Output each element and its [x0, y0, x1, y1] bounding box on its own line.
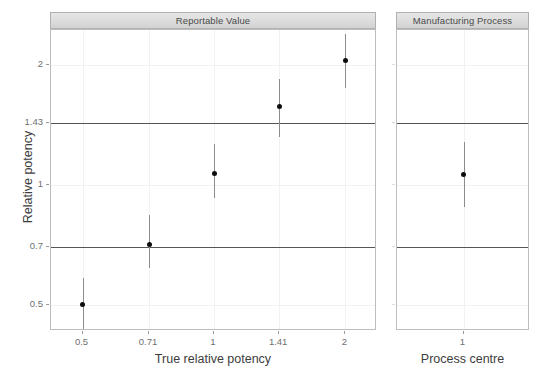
data-point[interactable]	[461, 172, 466, 177]
y-tick-mark-secondary	[392, 246, 395, 247]
panel-manufacturing-process: Manufacturing Process	[396, 12, 529, 330]
y-tick-label: 0.7	[0, 241, 43, 251]
x-tick-mark	[148, 331, 149, 334]
x-tick-mark	[278, 331, 279, 334]
data-point[interactable]	[277, 104, 282, 109]
y-tick-label: 0.5	[0, 299, 43, 309]
panel-strip-label-0: Reportable Value	[50, 12, 376, 29]
y-tick-mark-secondary	[392, 64, 395, 65]
x-tick-label: 0.5	[62, 337, 102, 347]
x-tick-label: 0.71	[128, 337, 168, 347]
y-tick-mark	[46, 64, 49, 65]
reference-line-0.7	[51, 247, 375, 248]
y-tick-label: 1.43	[0, 117, 43, 127]
x-tick-label: 1.41	[258, 337, 298, 347]
reference-line-0.7	[397, 247, 528, 248]
y-tick-label: 2	[0, 59, 43, 69]
gridline-horizontal	[397, 305, 528, 306]
reference-line-1.43	[51, 123, 375, 124]
gridline-horizontal	[397, 65, 528, 66]
reference-line-1.43	[397, 123, 528, 124]
x-axis-title-1: Process centre	[396, 352, 529, 366]
gridline-horizontal	[51, 185, 375, 186]
x-tick-label: 1	[443, 337, 483, 347]
data-point[interactable]	[147, 242, 152, 247]
x-axis-title-0: True relative potency	[50, 352, 376, 366]
x-tick-mark	[463, 331, 464, 334]
y-tick-mark	[46, 184, 49, 185]
y-tick-mark	[46, 122, 49, 123]
x-tick-mark	[213, 331, 214, 334]
x-tick-label: 2	[324, 337, 364, 347]
data-point[interactable]	[212, 171, 217, 176]
y-tick-label: 1	[0, 179, 43, 189]
y-tick-mark	[46, 246, 49, 247]
y-tick-mark-secondary	[392, 304, 395, 305]
y-tick-mark	[46, 304, 49, 305]
panel-strip-label-1: Manufacturing Process	[396, 12, 529, 29]
y-tick-mark-secondary	[392, 184, 395, 185]
gridline-horizontal	[51, 65, 375, 66]
x-tick-mark	[82, 331, 83, 334]
panel-reportable-value: Reportable Value	[50, 12, 376, 330]
gridline-horizontal	[51, 305, 375, 306]
chart-root: Relative potency 21.4310.70.5 Reportable…	[0, 0, 538, 375]
plot-area-1	[396, 29, 529, 330]
x-tick-label: 1	[193, 337, 233, 347]
gridline-vertical	[149, 30, 150, 329]
gridline-horizontal	[397, 185, 528, 186]
data-point[interactable]	[343, 58, 348, 63]
gridline-vertical	[279, 30, 280, 329]
y-tick-mark-secondary	[392, 122, 395, 123]
plot-area-0	[50, 29, 376, 330]
x-tick-mark	[344, 331, 345, 334]
data-point[interactable]	[80, 302, 85, 307]
